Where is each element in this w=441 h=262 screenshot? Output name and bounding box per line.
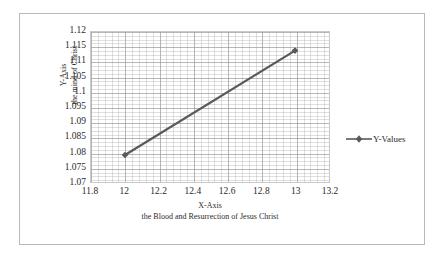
- series-plot: [91, 32, 329, 182]
- y-axis-tick-label: 1.11: [20, 55, 86, 65]
- chart-legend: Y-Values: [346, 134, 406, 144]
- legend-line-marker-icon: [346, 134, 372, 144]
- y-axis-tick-label: 1.08: [20, 147, 86, 157]
- y-axis-tick-label: 1.12: [20, 25, 86, 35]
- y-axis-tick-label: 1.095: [20, 101, 86, 111]
- y-axis-tick-label: 1.105: [20, 71, 86, 81]
- y-axis-tick-label: 1.085: [20, 131, 86, 141]
- series-line: [125, 51, 295, 155]
- y-axis-tick-label: 1.115: [20, 40, 86, 50]
- y-axis-tick-label: 1.075: [20, 162, 86, 172]
- x-axis-title-line1: X-Axis: [90, 200, 330, 211]
- x-axis-tick-label: 13.2: [310, 186, 350, 196]
- y-axis-tick-label: 1.09: [20, 116, 86, 126]
- y-axis-tick-label: 1.1: [20, 86, 86, 96]
- x-axis-title: X-Axis the Blood and Resurrection of Jes…: [90, 200, 330, 222]
- legend-entry-label: Y-Values: [373, 134, 406, 144]
- plot-area: [90, 31, 330, 183]
- x-axis-title-line2: the Blood and Resurrection of Jesus Chri…: [90, 211, 330, 222]
- chart-frame: Y-Axis the mind of Christ 1.071.0751.081…: [19, 13, 425, 245]
